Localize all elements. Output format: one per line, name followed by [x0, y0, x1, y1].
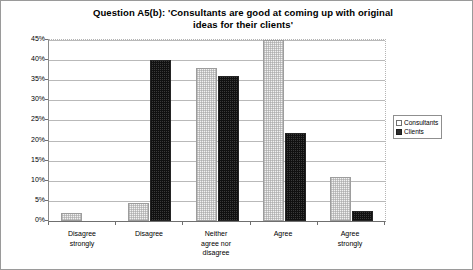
- legend-item-consultants: Consultants: [396, 118, 438, 127]
- y-axis-tick-label: 20%: [5, 136, 45, 143]
- legend-label-clients: Clients: [404, 128, 424, 135]
- legend-swatch-clients-icon: [396, 129, 402, 135]
- x-axis-category-label: Disagreestrongly: [52, 229, 112, 248]
- gridline: [49, 40, 385, 41]
- gridline: [49, 161, 385, 162]
- x-axis-category-label: Neitheragree nordisagree: [186, 229, 246, 258]
- chart-title-line-2: ideas for their clients': [193, 19, 293, 30]
- y-axis: 45%40%35%30%25%20%15%10%5%0%: [1, 39, 45, 222]
- x-axis-tick-mark: [115, 222, 116, 225]
- x-axis-tick-mark: [48, 222, 49, 225]
- legend-item-clients: Clients: [396, 127, 438, 136]
- chart-title: Question A5(b): 'Consultants are good at…: [53, 7, 433, 31]
- x-axis-category-label: Agree: [253, 229, 313, 239]
- x-axis-tick-mark: [182, 222, 183, 225]
- x-axis-category-label: Agreestrongly: [320, 229, 380, 248]
- gridline: [49, 80, 385, 81]
- bar-clients-4: [352, 211, 373, 221]
- bar-consultants-4: [330, 177, 351, 221]
- chart-legend: Consultants Clients: [393, 115, 442, 139]
- bar-consultants-1: [128, 203, 149, 221]
- x-axis-tick-mark: [317, 222, 318, 225]
- bar-consultants-3: [263, 40, 284, 221]
- x-axis-tick-mark: [250, 222, 251, 225]
- gridline: [49, 141, 385, 142]
- legend-swatch-consultants-icon: [396, 120, 402, 126]
- bar-clients-3: [285, 133, 306, 221]
- y-axis-tick-label: 10%: [5, 176, 45, 183]
- y-axis-tick-label: 5%: [5, 196, 45, 203]
- bar-clients-2: [218, 76, 239, 221]
- y-axis-tick-label: 35%: [5, 75, 45, 82]
- bar-consultants-2: [196, 68, 217, 221]
- bar-consultants-0: [61, 213, 82, 221]
- chart-title-line-1: Question A5(b): 'Consultants are good at…: [93, 7, 393, 18]
- x-axis-category-label: Disagree: [119, 229, 179, 239]
- bar-clients-1: [150, 60, 171, 221]
- legend-label-consultants: Consultants: [404, 119, 438, 126]
- chart-figure: Question A5(b): 'Consultants are good at…: [0, 0, 473, 270]
- plot-area: [48, 39, 386, 222]
- y-axis-tick-label: 15%: [5, 156, 45, 163]
- y-axis-tick-label: 25%: [5, 115, 45, 122]
- gridline: [49, 60, 385, 61]
- y-axis-tick-label: 30%: [5, 95, 45, 102]
- gridline: [49, 120, 385, 121]
- x-axis: DisagreestronglyDisagreeNeitheragree nor…: [48, 222, 386, 268]
- y-axis-tick-label: 40%: [5, 55, 45, 62]
- x-axis-tick-mark: [384, 222, 385, 225]
- y-axis-tick-label: 45%: [5, 35, 45, 42]
- gridline: [49, 100, 385, 101]
- y-axis-tick-label: 0%: [5, 216, 45, 223]
